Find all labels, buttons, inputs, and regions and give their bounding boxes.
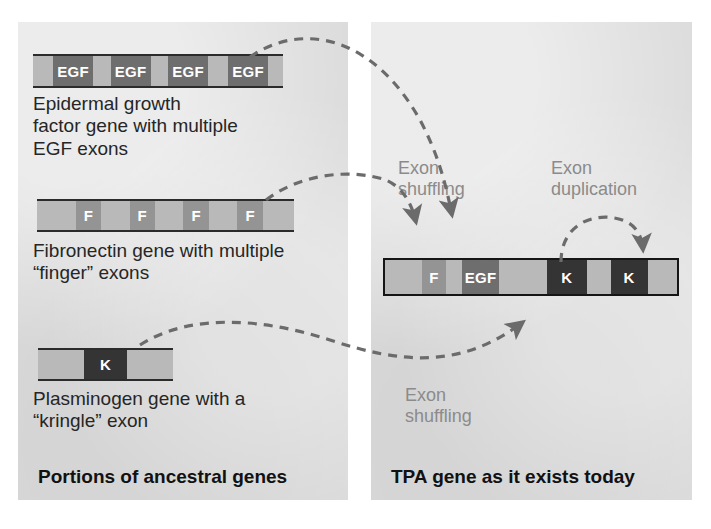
exon-duplication-annotation: Exon duplication [551, 158, 637, 200]
plasminogen-gene-bar: K [38, 348, 173, 381]
intron-segment-2 [93, 56, 111, 86]
exon-shuffling-top-annotation: Exon shuffling [398, 158, 465, 200]
intron-segment-2 [446, 260, 462, 294]
intron-segment-0 [385, 260, 422, 294]
intron-segment-2 [101, 201, 129, 230]
intron-segment-0 [38, 350, 84, 379]
exon-egf-segment-3: EGF [462, 260, 499, 294]
intron-segment-8 [263, 201, 294, 230]
exon-shuffling-bottom-annotation: Exon shuffling [405, 385, 472, 427]
tpa-gene-label: TPA gene as it exists today [391, 466, 635, 488]
fibronectin-gene-caption: Fibronectin gene with multiple “finger” … [33, 240, 333, 285]
tpa-gene-bar: FEGFKK [383, 258, 679, 296]
intron-segment-6 [208, 56, 228, 86]
exon-k-segment-7: K [611, 260, 648, 294]
intron-segment-6 [587, 260, 611, 294]
exon-f-segment-1: F [422, 260, 446, 294]
intron-segment-0 [33, 56, 53, 86]
exon-egf-segment-7: EGF [228, 56, 268, 86]
intron-segment-4 [155, 201, 183, 230]
exon-k-segment-5: K [547, 260, 587, 294]
exon-k-segment-1: K [84, 350, 127, 379]
intron-segment-4 [151, 56, 169, 86]
plasminogen-gene-caption: Plasminogen gene with a “kringle” exon [33, 388, 333, 433]
exon-shuffling-figure: EGFEGFEGFEGF Epidermal growth factor gen… [0, 0, 711, 529]
exon-egf-segment-1: EGF [53, 56, 93, 86]
ancestral-genes-label: Portions of ancestral genes [38, 466, 287, 488]
fibronectin-gene-bar: FFFF [37, 199, 294, 232]
intron-segment-8 [268, 56, 283, 86]
intron-segment-4 [499, 260, 547, 294]
intron-segment-2 [127, 350, 173, 379]
intron-segment-0 [37, 201, 76, 230]
exon-f-segment-1: F [76, 201, 102, 230]
exon-f-segment-5: F [183, 201, 209, 230]
exon-egf-segment-5: EGF [168, 56, 208, 86]
intron-segment-6 [209, 201, 237, 230]
intron-segment-8 [648, 260, 677, 294]
egf-gene-caption: Epidermal growth factor gene with multip… [33, 93, 333, 160]
egf-gene-bar: EGFEGFEGFEGF [33, 54, 283, 88]
exon-egf-segment-3: EGF [111, 56, 151, 86]
exon-f-segment-7: F [237, 201, 263, 230]
exon-f-segment-3: F [130, 201, 156, 230]
